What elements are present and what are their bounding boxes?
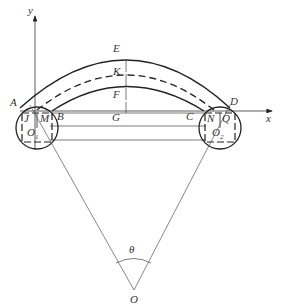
- angle-theta-arc: [116, 259, 151, 264]
- label-j: J: [24, 112, 30, 124]
- geometry-diagram: y x A B C D E K F G J M N Q O1 O2 O θ: [0, 0, 281, 306]
- label-c: C: [186, 110, 194, 122]
- label-q: Q: [222, 112, 230, 124]
- label-k: K: [112, 65, 121, 77]
- label-e: E: [112, 42, 120, 54]
- label-theta: θ: [129, 243, 135, 255]
- label-x: x: [265, 112, 271, 124]
- label-m: M: [39, 112, 50, 124]
- label-b: B: [57, 110, 64, 122]
- label-y: y: [27, 4, 33, 16]
- label-o2: O2: [212, 126, 224, 141]
- inner-arc-bfc: [52, 87, 204, 112]
- label-d: D: [229, 95, 238, 107]
- label-o1: O1: [27, 126, 38, 141]
- outer-arc-aed: [20, 60, 230, 108]
- label-o: O: [130, 293, 138, 305]
- label-f: F: [112, 88, 120, 100]
- label-n: N: [206, 112, 215, 124]
- label-g: G: [112, 111, 120, 123]
- label-a: A: [9, 96, 17, 108]
